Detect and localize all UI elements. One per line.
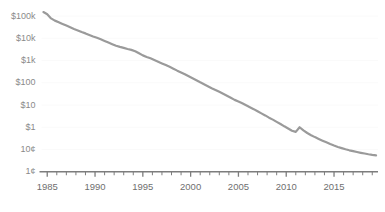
chart-container: $100k$10k$1k$100$10$110¢1¢ 1985199019952… <box>0 0 385 212</box>
series-path <box>43 12 376 155</box>
chart-plot-area <box>0 0 385 212</box>
data-series-line <box>43 12 376 155</box>
x-axis <box>40 172 379 177</box>
gridlines <box>42 16 379 172</box>
